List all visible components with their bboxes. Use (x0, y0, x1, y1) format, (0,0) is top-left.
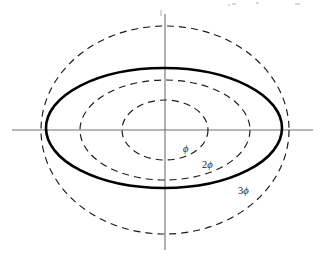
label-3phi-sym: ϕ (243, 185, 249, 196)
phase-portrait-plot: ϕ 2ϕ 3ϕ (0, 0, 321, 260)
contour-separatrix-solid (46, 68, 282, 188)
svg-text:3ϕ: 3ϕ (238, 185, 249, 196)
label-2phi: 2ϕ (202, 159, 213, 170)
svg-text:2ϕ: 2ϕ (202, 159, 213, 170)
figure-canvas: ϕ 2ϕ 3ϕ (0, 0, 321, 260)
scan-artifacts (160, 2, 300, 16)
label-phi: ϕ (183, 143, 189, 154)
label-2phi-sym: ϕ (207, 159, 213, 170)
label-3phi: 3ϕ (238, 185, 249, 196)
